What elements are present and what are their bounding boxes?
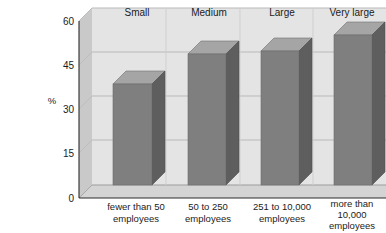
y-tick-label-30: 30 — [63, 104, 75, 115]
bar-very-large — [334, 22, 385, 185]
bar-medium — [188, 41, 239, 185]
cat-label-4-line-1: more than — [331, 198, 374, 209]
cat-label-2-line-2: employees — [185, 213, 231, 224]
bar-chart: 60 45 30 15 0 % Small Medium Large Very … — [0, 0, 386, 233]
cat-label-1-line-1: fewer than 50 — [107, 201, 165, 212]
group-header-medium: Medium — [191, 7, 227, 18]
cat-label-3-line-1: 251 to 10,000 — [253, 201, 311, 212]
bar-large-side — [299, 38, 312, 185]
cat-label-3-line-2: employees — [259, 213, 305, 224]
bar-large-front — [261, 51, 299, 185]
y-tick-label-0: 0 — [68, 193, 74, 204]
y-tick-label-45: 45 — [63, 60, 75, 71]
cat-label-2-line-1: 50 to 250 — [188, 201, 228, 212]
bar-medium-side — [226, 41, 239, 185]
y-axis-title: % — [48, 95, 57, 106]
bar-medium-front — [188, 54, 226, 185]
chart-canvas: 60 45 30 15 0 % Small Medium Large Very … — [0, 0, 386, 233]
cat-label-1-line-2: employees — [113, 213, 159, 224]
cat-label-4-line-2: 10,000 — [337, 209, 366, 220]
group-header-large: Large — [269, 7, 295, 18]
bar-small-front — [113, 84, 152, 185]
bar-small — [113, 71, 165, 185]
bar-very-large-front — [334, 35, 372, 185]
bar-small-side — [152, 71, 165, 185]
y-tick-label-60: 60 — [63, 16, 75, 27]
cat-label-4-line-3: employees — [329, 220, 375, 231]
bar-large — [261, 38, 312, 185]
y-tick-label-15: 15 — [63, 148, 75, 159]
group-header-very-large: Very large — [329, 7, 374, 18]
plot-floor — [79, 185, 386, 198]
bar-very-large-side — [372, 22, 385, 185]
group-header-small: Small — [124, 7, 149, 18]
